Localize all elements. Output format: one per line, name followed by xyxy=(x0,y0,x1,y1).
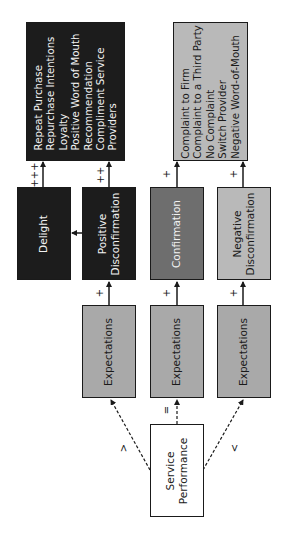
expectations-box-3: Expectations xyxy=(217,305,271,398)
outcome-item: Complaint to a Third Party xyxy=(192,25,204,159)
confirmation-label: Confirmation xyxy=(170,200,183,268)
outcome-item: No Complaint xyxy=(204,25,216,159)
sign-equal: = xyxy=(162,406,172,414)
outcome-item: Loyalty xyxy=(57,33,69,150)
outcome-item: Compliment Service xyxy=(94,33,106,150)
outcome-item: Recommendation xyxy=(82,33,94,150)
outcome-item: Repurchase Intentions xyxy=(44,33,56,150)
outcome-item: Switch Provider xyxy=(217,25,229,159)
positive-disconfirmation-box: Positive Disconfirmation xyxy=(82,187,136,280)
negative-outcomes-list: Complaint to Firm Complaint to a Third P… xyxy=(179,25,241,159)
negative-disconfirmation-label: Negative Disconfirmation xyxy=(231,192,257,275)
label-line: Service xyxy=(164,437,177,504)
confirmation-box: Confirmation xyxy=(150,187,204,280)
negative-disconfirmation-box: Negative Disconfirmation xyxy=(217,187,271,280)
arrow-greater xyxy=(111,400,150,470)
label-line: Negative xyxy=(231,192,244,275)
sign-exp-negative: + xyxy=(229,289,239,297)
arrow-less xyxy=(203,400,243,470)
negative-outcomes-box: Complaint to Firm Complaint to a Third P… xyxy=(173,22,248,161)
outcome-item: Repeat Purchase xyxy=(32,33,44,150)
sign-positive-outcome: ++ xyxy=(96,167,106,184)
label-line: Disconfirmation xyxy=(109,192,122,275)
expectations-box-2: Expectations xyxy=(150,305,204,398)
expectations-label: Expectations xyxy=(237,318,250,386)
sign-greater: > xyxy=(119,444,129,452)
sign-less: < xyxy=(230,444,240,452)
diagram-canvas: Repeat Purchase Repurchase Intentions Lo… xyxy=(0,0,285,543)
expectations-box-1: Expectations xyxy=(82,305,136,398)
positive-outcomes-box: Repeat Purchase Repurchase Intentions Lo… xyxy=(26,22,125,161)
outcome-item: Providers xyxy=(107,33,119,150)
label-line: Performance xyxy=(177,437,190,504)
label-line: Disconfirmation xyxy=(244,192,257,275)
sign-delight-outcome: +++ xyxy=(30,162,40,187)
delight-label: Delight xyxy=(37,215,50,253)
outcome-item: Negative Word-of-Mouth xyxy=(229,25,241,159)
service-performance-box: Service Performance xyxy=(150,424,204,517)
positive-outcomes-list: Repeat Purchase Repurchase Intentions Lo… xyxy=(32,33,119,150)
expectations-label: Expectations xyxy=(102,318,115,386)
positive-disconfirmation-label: Positive Disconfirmation xyxy=(96,192,122,275)
label-line: Positive xyxy=(96,192,109,275)
sign-exp-confirmation: + xyxy=(162,289,172,297)
sign-exp-positive: + xyxy=(95,289,105,297)
sign-negative-outcome: + xyxy=(229,170,239,178)
sign-confirmation-outcome: + xyxy=(162,170,172,178)
delight-box: Delight xyxy=(17,187,71,280)
expectations-label: Expectations xyxy=(170,318,183,386)
service-performance-label: Service Performance xyxy=(164,437,190,504)
outcome-item: Positive Word of Mouth xyxy=(69,33,81,150)
outcome-item: Complaint to Firm xyxy=(179,25,191,159)
